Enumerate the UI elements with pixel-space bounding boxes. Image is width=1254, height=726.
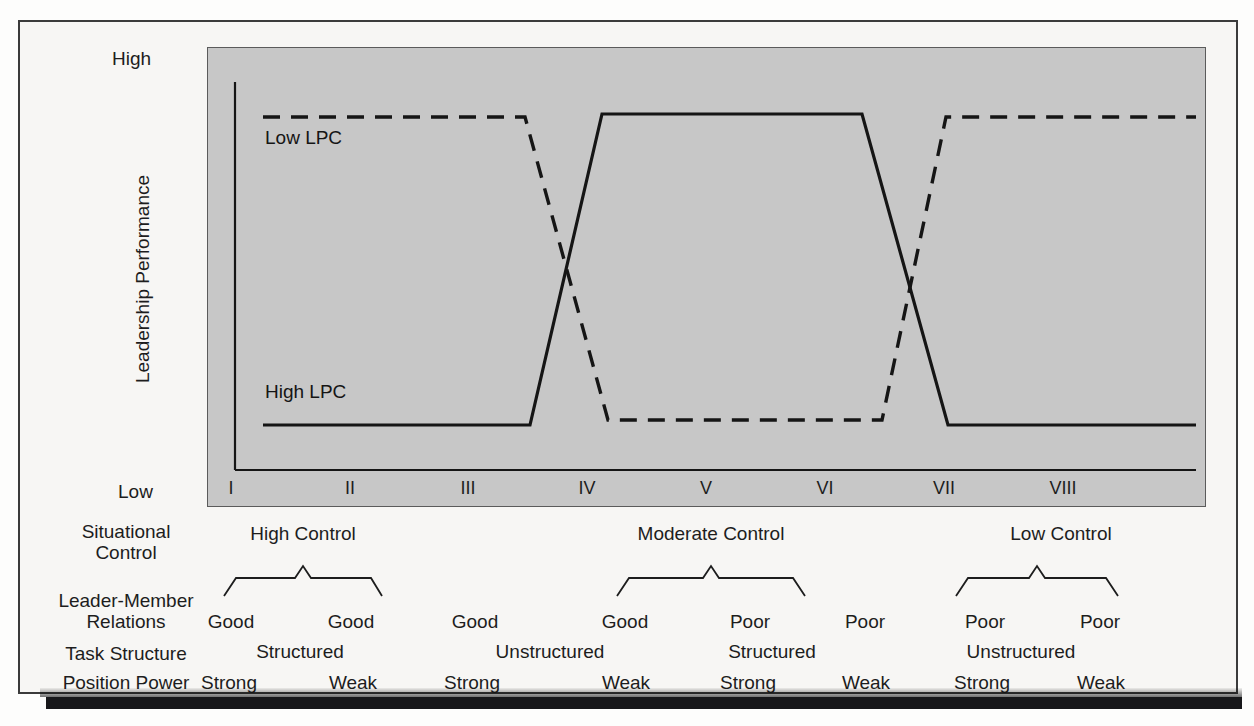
y-axis-high-label: High	[112, 48, 151, 70]
lmr-cell-4: Good	[565, 611, 685, 633]
situational-control-cell-high: High Control	[183, 523, 423, 545]
task-structure-cell-1: Structured	[200, 641, 400, 663]
figure-root: High Low Leadership Performance Low LPC …	[0, 0, 1254, 726]
task-structure-cell-3: Structured	[672, 641, 872, 663]
lmr-cell-1: Good	[171, 611, 291, 633]
lmr-cell-3: Good	[415, 611, 535, 633]
task-structure-cell-4: Unstructured	[921, 641, 1121, 663]
series-label-low-lpc: Low LPC	[265, 127, 342, 149]
x-tick-4: IV	[557, 478, 617, 499]
x-tick-7: VII	[914, 478, 974, 499]
lmr-cell-8: Poor	[1040, 611, 1160, 633]
x-tick-8: VIII	[1033, 478, 1093, 499]
lmr-cell-7: Poor	[925, 611, 1045, 633]
lmr-cell-5: Poor	[690, 611, 810, 633]
row-label-task-structure: Task Structure	[36, 643, 216, 664]
y-axis-title: Leadership Performance	[132, 129, 154, 429]
y-axis-low-label: Low	[118, 481, 153, 503]
lmr-cell-6: Poor	[805, 611, 925, 633]
row-label-lmr-line1: Leader-Member	[36, 590, 216, 611]
situational-control-cell-low: Low Control	[941, 523, 1181, 545]
page-bottom-bar	[46, 697, 1242, 709]
row-label-situational-control-line2: Control	[36, 542, 216, 563]
x-tick-1: I	[201, 478, 261, 499]
plot-panel	[207, 47, 1206, 507]
situational-control-cell-moderate: Moderate Control	[591, 523, 831, 545]
task-structure-cell-2: Unstructured	[450, 641, 650, 663]
series-label-high-lpc: High LPC	[265, 381, 346, 403]
x-tick-2: II	[320, 478, 380, 499]
x-tick-3: III	[438, 478, 498, 499]
lmr-cell-2: Good	[291, 611, 411, 633]
x-tick-6: VI	[795, 478, 855, 499]
page-bottom-shadow	[40, 688, 1242, 697]
x-tick-5: V	[676, 478, 736, 499]
